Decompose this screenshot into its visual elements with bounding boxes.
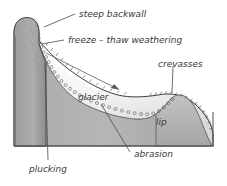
backwall-rock [14,18,46,147]
corrie-cross-section-svg: steep backwall freeze – thaw weathering … [0,0,227,186]
label-plucking: plucking [28,164,67,174]
label-crevasses: crevasses [158,59,203,69]
label-lip: lip [156,117,167,127]
steep-backwall [14,18,46,147]
leader-steep-backwall [44,14,75,27]
leader-freeze-thaw [42,40,64,44]
label-steep-backwall: steep backwall [79,9,147,19]
glacier-diagram: steep backwall freeze – thaw weathering … [0,0,227,186]
label-freeze-thaw: freeze – thaw weathering [68,35,182,45]
leader-crevasses [172,66,173,93]
label-glacier: glacier [78,92,110,102]
label-abrasion: abrasion [134,149,173,159]
